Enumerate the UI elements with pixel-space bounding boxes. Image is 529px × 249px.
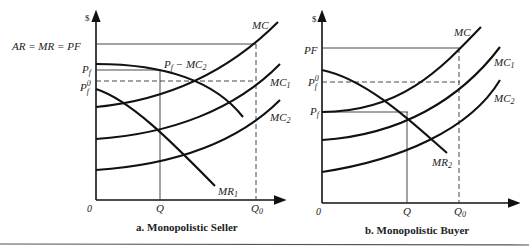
panel-a-dollar-label: $ — [85, 13, 90, 23]
panel-b-mc-curve — [322, 27, 481, 112]
panel-a-ar-mr-pf-label: AR = MR = PF — [11, 40, 81, 52]
panel-b-mr2-label: MR2 — [431, 156, 452, 170]
panel-a-pf-minus-mc2-label: Pf − MC2 — [163, 58, 206, 72]
panel-b-mc1-label: MC1 — [493, 56, 515, 70]
panel-b-mc2-label: MC2 — [493, 92, 515, 106]
panel-a-pf0-label: P0f — [79, 79, 91, 96]
panel-a-q-label: Q — [156, 202, 164, 214]
panel-a-caption: a. Monopolistic Seller — [136, 221, 238, 233]
panel-b-dollar-label: $ — [312, 14, 317, 24]
panel-a-mc1-curve — [96, 64, 280, 139]
panel-b-origin: 0 — [316, 206, 321, 217]
diagram-canvas: $ 0 AR = MR = PF Pf P0f Q Q0 Pf − MC2 MR… — [0, 0, 529, 249]
panel-a-origin: 0 — [87, 203, 92, 214]
panel-b-pf0-label: P0f — [307, 74, 319, 91]
panel-a-mr1-label: MR1 — [217, 185, 238, 199]
panel-b-pf-label: PF — [303, 44, 318, 56]
panel-b-caption: b. Monopolistic Buyer — [365, 224, 469, 236]
panel-b-mc1-curve — [322, 47, 500, 140]
panel-b-q-label: Q — [403, 205, 411, 217]
panel-a-q0-label: Q0 — [251, 202, 263, 216]
page-bottom-rule — [0, 244, 529, 245]
panel-a-mc1-label: MC1 — [269, 76, 291, 90]
panel-b-pf-price-label: Pf — [309, 105, 321, 119]
panel-a-pf-label: Pf — [81, 63, 93, 77]
panel-b-mc2-curve — [322, 80, 500, 172]
panel-b-q0-label: Q0 — [454, 205, 466, 219]
panel-a-mc2-label: MC2 — [269, 111, 291, 125]
panel-a-mc-label: MC — [251, 19, 269, 31]
panel-b-mc-label: MC — [453, 26, 471, 38]
panel-a-monopolistic-seller: $ 0 AR = MR = PF Pf P0f Q Q0 Pf − MC2 MR… — [11, 13, 291, 233]
panel-b-monopolistic-buyer: $ 0 PF P0f Pf Q Q0 MR2 MC MC1 MC2 b. Mon… — [303, 14, 515, 236]
